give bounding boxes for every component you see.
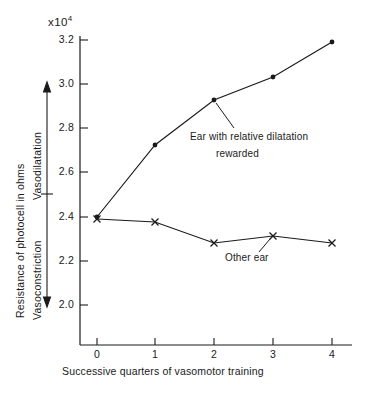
data-point-upper-4	[330, 40, 335, 45]
leader-line-lower	[259, 239, 270, 252]
x-axis-title: Successive quarters of vasomotor trainin…	[62, 365, 264, 377]
series-other-ear	[94, 216, 336, 253]
data-point-upper-1	[153, 143, 158, 148]
x-tick-label-4: 4	[323, 348, 341, 360]
y-tick-label-2.0: 2.0	[48, 298, 74, 310]
axis-lines	[80, 36, 352, 345]
y-tick-label-3.2: 3.2	[48, 33, 74, 45]
data-point-upper-3	[271, 75, 276, 80]
chart-figure: x104 3.2 3.0 2.8 2.6 2.4 2.2 2.0 0 1 2 3…	[0, 0, 365, 393]
y-axis-multiplier-base: x10	[48, 16, 68, 28]
y-tick-label-2.8: 2.8	[48, 121, 74, 133]
data-point-upper-2	[212, 98, 217, 103]
x-tick-label-1: 1	[146, 348, 164, 360]
y-axis-multiplier-exponent: 4	[68, 14, 73, 23]
y-axis-ticks	[80, 40, 88, 305]
series-line-lower	[97, 219, 332, 243]
y-axis-multiplier: x104	[48, 14, 73, 28]
x-tick-label-3: 3	[264, 348, 282, 360]
annotation-upper-series-line2: rewarded	[216, 148, 259, 159]
y-tick-label-2.6: 2.6	[48, 165, 74, 177]
y-tick-label-2.2: 2.2	[48, 254, 74, 266]
y-tick-label-3.0: 3.0	[48, 77, 74, 89]
x-tick-label-0: 0	[88, 348, 106, 360]
x-tick-label-2: 2	[205, 348, 223, 360]
series-ear-with-relative-dilatation-rewarded	[95, 40, 335, 220]
plot-area	[0, 0, 365, 393]
x-axis-ticks	[97, 338, 332, 345]
vasodilatation-label: Vasodilatation	[31, 132, 43, 200]
leader-line-upper	[216, 103, 234, 128]
y-axis-title: Resistance of photocell in ohms	[14, 164, 26, 318]
annotation-lower-series: Other ear	[225, 252, 269, 263]
annotation-upper-series-line1: Ear with relative dilatation	[190, 131, 308, 142]
series-line-upper	[97, 42, 332, 217]
vasoconstriction-label: Vasoconstriction	[31, 241, 43, 320]
y-tick-label-2.4: 2.4	[48, 210, 74, 222]
